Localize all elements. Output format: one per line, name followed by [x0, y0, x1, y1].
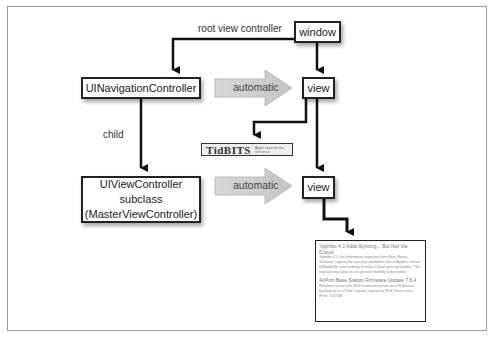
view-logo-edge — [254, 99, 306, 135]
logo-tagline: Apple news for the rest of us — [255, 146, 289, 154]
vc-node-line2: (MasterViewController) — [85, 207, 197, 222]
window-node: window — [294, 21, 341, 43]
automatic-label-bottom: automatic — [233, 179, 279, 191]
list-item-body: Yojimbo 4.5, the information organizer f… — [319, 255, 422, 275]
child-label: child — [103, 129, 124, 140]
list-item-title: Yojimbo 4.0 Adds Syncing... But Not Via … — [319, 243, 422, 255]
view-node-bottom: view — [302, 176, 335, 199]
automatic-label-top: automatic — [233, 81, 279, 93]
tidbits-logo: TidBITS Apple news for the rest of us — [201, 143, 293, 156]
list-item-title: AirPort Base Station Firmware Update 7.6… — [319, 277, 422, 283]
view-list-edge — [324, 199, 347, 232]
view-node-top: view — [302, 77, 335, 99]
news-list-preview: Yojimbo 4.0 Adds Syncing... But Not Via … — [315, 240, 426, 322]
ui-navigation-controller-node: UINavigationController — [81, 77, 201, 99]
root-view-controller-label: root view controller — [198, 23, 282, 34]
root-vc-edge — [173, 39, 294, 70]
vc-node-line1: UIViewController subclass — [83, 177, 199, 207]
list-item-body: Resolves issues with Wi-Fi connectivity … — [319, 284, 422, 299]
logo-wordmark: TidBITS — [206, 144, 251, 156]
ui-view-controller-subclass-node: UIViewController subclass (MasterViewCon… — [81, 176, 201, 223]
